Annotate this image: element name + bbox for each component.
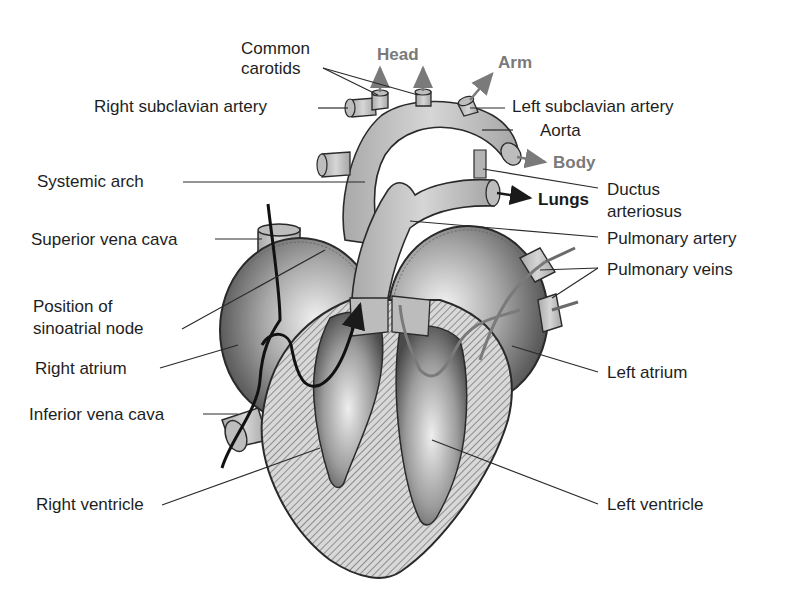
label-left-subclavian-artery: Left subclavian artery	[512, 97, 674, 116]
label-pulmonary-artery: Pulmonary artery	[607, 229, 736, 248]
label-right-ventricle: Right ventricle	[36, 495, 144, 514]
label-aorta: Aorta	[540, 121, 581, 140]
label-common-carotids-line1: Common	[241, 39, 310, 58]
label-left-ventricle: Left ventricle	[607, 495, 703, 514]
label-sinoatrial-node-line1: Position of	[33, 297, 112, 316]
label-superior-vena-cava: Superior vena cava	[31, 230, 177, 249]
label-right-atrium: Right atrium	[35, 359, 127, 378]
ductus-arteriosus-shape	[474, 150, 486, 178]
label-ductus-arteriosus-line2: arteriosus	[607, 202, 682, 221]
label-inferior-vena-cava: Inferior vena cava	[29, 405, 164, 424]
flow-label-arm: Arm	[498, 53, 532, 72]
lungs-arrow	[497, 193, 530, 198]
label-pulmonary-veins: Pulmonary veins	[607, 260, 733, 279]
label-left-atrium: Left atrium	[607, 363, 687, 382]
arm-arrow	[470, 74, 492, 100]
flow-label-body: Body	[553, 153, 596, 172]
label-ductus-arteriosus-line1: Ductus	[607, 180, 660, 199]
label-common-carotids-line2: carotids	[241, 59, 301, 78]
flow-label-head: Head	[377, 45, 419, 64]
label-systemic-arch: Systemic arch	[37, 172, 144, 191]
flow-label-lungs: Lungs	[538, 190, 589, 209]
label-sinoatrial-node-line2: sinoatrial node	[33, 319, 144, 338]
ventricles-wall	[262, 300, 512, 578]
label-right-subclavian-artery: Right subclavian artery	[94, 97, 267, 116]
